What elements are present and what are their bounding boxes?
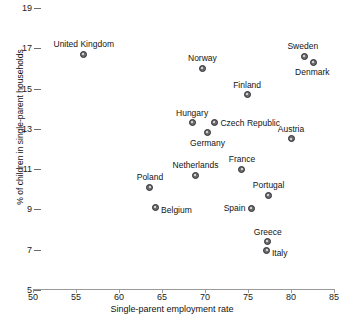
x-axis-line (33, 289, 334, 290)
data-point-label: Hungary (176, 108, 208, 118)
data-point-label: Denmark (295, 67, 329, 77)
data-point-marker[interactable] (146, 184, 153, 191)
data-point-marker[interactable] (310, 59, 317, 66)
x-tick-label-70: 70 (200, 292, 210, 302)
y-tick-17 (34, 48, 41, 49)
data-point-label: Greece (254, 227, 282, 237)
y-tick-9 (34, 209, 41, 210)
y-tick-11 (34, 169, 41, 170)
y-tick-13 (34, 129, 41, 130)
data-point-label: Poland (137, 172, 163, 182)
data-point-label: Norway (188, 53, 217, 63)
y-tick-19 (34, 8, 41, 9)
data-point-marker[interactable] (152, 204, 159, 211)
data-point-marker[interactable] (244, 91, 251, 98)
x-tick-label-80: 80 (286, 292, 296, 302)
data-point-marker[interactable] (204, 129, 211, 136)
y-tick-label-9: 9 (27, 204, 32, 214)
data-point-marker[interactable] (264, 238, 271, 245)
data-point-label: Germany (190, 138, 225, 148)
data-point-label: United Kingdom (53, 39, 113, 49)
y-tick-5 (34, 290, 41, 291)
data-point-marker[interactable] (263, 247, 270, 254)
data-point-label: Czech Republic (220, 118, 280, 128)
y-tick-label-7: 7 (27, 245, 32, 255)
data-point-marker[interactable] (211, 119, 218, 126)
data-point-label: Belgium (161, 205, 192, 215)
y-tick-label-5: 5 (27, 285, 32, 295)
data-point-label: Finland (233, 80, 261, 90)
data-point-label: Netherlands (173, 160, 219, 170)
data-point-marker[interactable] (189, 119, 196, 126)
scatter-chart: 5055606570758085 5791113151719 United Ki… (0, 0, 344, 320)
data-point-label: Portugal (253, 180, 285, 190)
data-point-marker[interactable] (265, 192, 272, 199)
y-tick-7 (34, 250, 41, 251)
plot-area: 5055606570758085 5791113151719 United Ki… (0, 0, 344, 320)
data-point-marker[interactable] (301, 53, 308, 60)
data-point-label: Austria (278, 124, 304, 134)
x-tick-label-85: 85 (329, 292, 339, 302)
data-point-label: Spain (224, 203, 246, 213)
data-point-label: Italy (272, 248, 288, 258)
data-point-marker[interactable] (192, 172, 199, 179)
y-axis-title: % of children in single-parent household… (15, 47, 25, 207)
data-point-marker[interactable] (288, 135, 295, 142)
x-tick-label-65: 65 (157, 292, 167, 302)
x-tick-label-55: 55 (71, 292, 81, 302)
y-tick-label-19: 19 (22, 3, 32, 13)
data-point-marker[interactable] (199, 65, 206, 72)
y-tick-15 (34, 89, 41, 90)
x-tick-label-60: 60 (114, 292, 124, 302)
data-point-label: France (229, 154, 255, 164)
data-point-marker[interactable] (238, 166, 245, 173)
data-point-marker[interactable] (248, 205, 255, 212)
data-point-label: Sweden (287, 41, 318, 51)
x-tick-label-75: 75 (243, 292, 253, 302)
data-point-marker[interactable] (80, 51, 87, 58)
x-axis-title: Single-parent employment rate (0, 304, 344, 314)
